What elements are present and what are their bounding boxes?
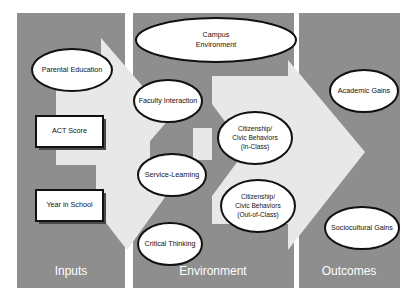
node-label: Academic Gains [338,86,391,95]
node-critical-thinking[interactable]: Critical Thinking [138,223,202,265]
node-citizenship-civic-behaviors-out-of-class[interactable]: Citizenship/Civic Behaviors(Out-of-Class… [221,180,295,232]
node-act-score[interactable]: ACT Score [36,116,106,150]
node-label: Parental Education [42,65,103,74]
node-sociocultural-gains[interactable]: Sociocultural Gains [325,207,399,249]
node-label: Year in School [46,200,92,209]
node-label: Critical Thinking [145,239,196,248]
node-label: Environment [196,40,236,49]
diagram-svg: Parental EducationACT ScoreYear in Schoo… [0,0,420,297]
node-academic-gains[interactable]: Academic Gains [330,70,398,112]
panel-label-environment: Environment [179,264,247,278]
node-label: Citizenship/ [238,125,272,133]
node-label: Campus [203,30,230,39]
node-label: (In-Class) [241,143,270,151]
node-year-in-school[interactable]: Year in School [36,190,106,224]
node-service-learning[interactable]: Service-Learning [138,154,206,196]
panel-label-inputs: Inputs [55,264,88,278]
panel-label-outcomes: Outcomes [322,264,377,278]
node-label: Service-Learning [145,170,199,179]
arrow-environment-to-outcomes-tail-nub [193,128,212,160]
node-label: Civic Behaviors [235,202,281,209]
node-citizenship-civic-behaviors-in-class[interactable]: Citizenship/Civic Behaviors(In-Class) [218,112,292,164]
node-label: (Out-of-Class) [237,211,278,219]
node-label: Citizenship/ [241,193,275,201]
diagram-canvas: Parental EducationACT ScoreYear in Schoo… [0,0,420,297]
node-label: Faculty Interaction [139,96,198,105]
node-label: ACT Score [52,126,87,135]
node-label: Sociocultural Gains [331,223,393,232]
node-label: Civic Behaviors [232,134,278,141]
node-faculty-interaction[interactable]: Faculty Interaction [134,80,202,122]
node-campus-environment[interactable]: CampusEnvironment [136,18,296,62]
node-parental-education[interactable]: Parental Education [32,49,112,91]
